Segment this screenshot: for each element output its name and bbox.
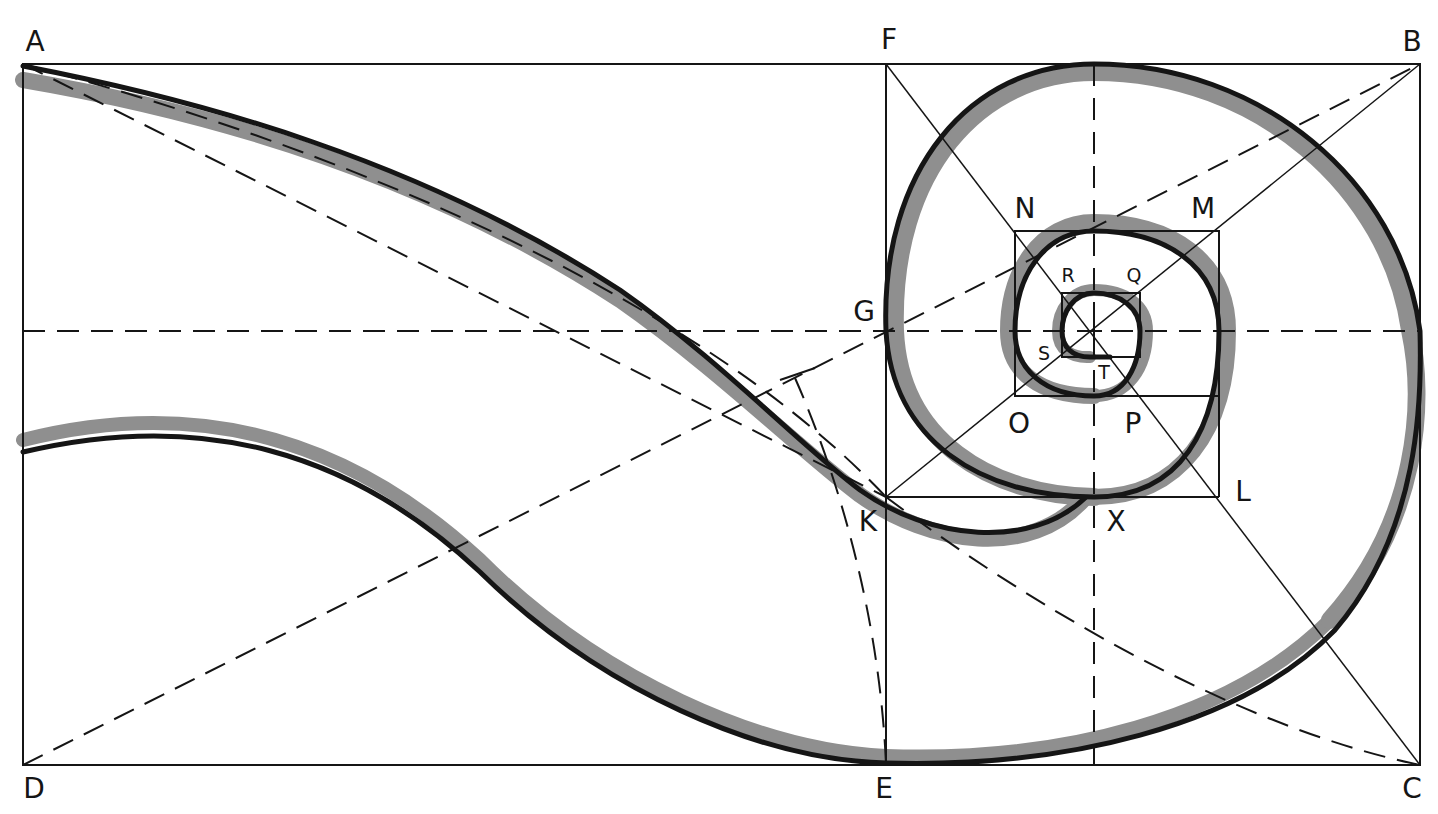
label-point-n: N — [1015, 195, 1036, 223]
label-point-g: G — [853, 298, 875, 326]
label-point-e: E — [875, 775, 893, 803]
label-point-a: A — [25, 28, 44, 56]
golden-spiral-diagram: A B C D E F G K L M N O P Q R S T X — [0, 0, 1438, 814]
label-point-q: Q — [1127, 266, 1142, 285]
label-point-x: X — [1106, 508, 1125, 536]
label-point-p: P — [1125, 410, 1142, 438]
label-point-r: R — [1061, 266, 1074, 285]
label-point-o: O — [1008, 410, 1030, 438]
label-point-s: S — [1038, 344, 1050, 363]
diagram-canvas — [0, 0, 1438, 814]
label-point-c: C — [1402, 775, 1422, 803]
label-point-d: D — [23, 775, 45, 803]
label-point-l: L — [1235, 478, 1251, 506]
label-point-t: T — [1098, 363, 1110, 382]
center-mark — [1086, 323, 1102, 339]
label-point-f: F — [881, 26, 897, 54]
label-point-k: K — [859, 508, 877, 536]
label-point-m: M — [1191, 195, 1215, 223]
label-point-b: B — [1402, 28, 1421, 56]
